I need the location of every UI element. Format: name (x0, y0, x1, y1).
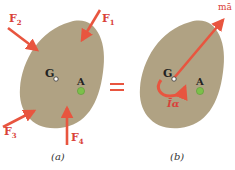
label-f4: F4 (71, 131, 84, 146)
label-g-a: G (45, 67, 54, 80)
label-g-b: G (163, 67, 172, 80)
label-i-alpha: Īα (167, 98, 179, 109)
label-f3: F3 (4, 125, 17, 140)
label-f2: F2 (9, 12, 22, 27)
caption-b: (b) (170, 151, 184, 162)
caption-a: (a) (51, 151, 65, 162)
label-point-a-a: A (77, 76, 85, 87)
label-f1: F1 (102, 12, 115, 27)
labels-layer: F2 F1 F3 F4 G A (a) mā G A Īα (b) (0, 0, 235, 170)
label-point-a-b: A (196, 76, 204, 87)
label-ma: mā (218, 2, 232, 12)
